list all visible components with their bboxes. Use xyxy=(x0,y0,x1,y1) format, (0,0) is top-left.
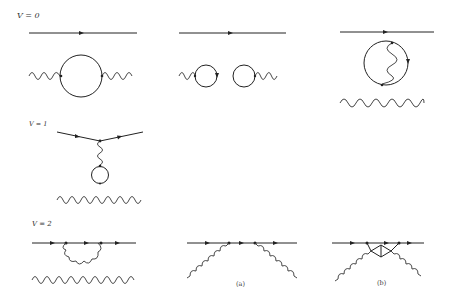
feynman-diagram-figure: V = 0 V = 1 V = 2 (a) (b) xyxy=(0,0,449,302)
diagram-v0-a xyxy=(29,31,137,97)
diagram-v2-c xyxy=(332,241,424,281)
diagram-v1-a xyxy=(57,132,143,204)
diagrams-canvas xyxy=(0,0,449,302)
diagram-v2-b xyxy=(187,241,297,278)
diagram-v2-a xyxy=(32,241,136,284)
diagram-v0-c xyxy=(340,30,434,107)
diagram-v0-b xyxy=(179,31,286,87)
